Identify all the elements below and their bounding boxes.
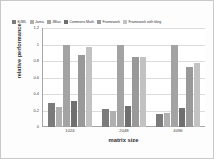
y-axis-tick-labels: 00.20.40.60.811.2 [25, 23, 41, 133]
y-axis-tick-label: 0.8 [33, 59, 39, 63]
y-axis-title: relative performance [16, 8, 22, 94]
legend-item[interactable]: JBlas [47, 20, 61, 24]
bar-group [97, 28, 151, 127]
legend-item[interactable]: Framework [97, 20, 120, 24]
bar[interactable] [164, 113, 171, 127]
bar[interactable] [156, 114, 163, 127]
bar[interactable] [132, 57, 139, 127]
y-axis-tick-label: 0.4 [33, 92, 39, 96]
legend-item-label: Commons Math [69, 20, 94, 24]
bar[interactable] [102, 109, 109, 127]
legend-item-label: Framework [102, 20, 120, 24]
y-axis-tick-label: 0.6 [33, 76, 39, 80]
bar[interactable] [186, 67, 193, 127]
legend-swatch-icon [97, 20, 101, 24]
x-axis-tick-label: 2048 [97, 128, 151, 133]
y-axis-tick-label: 0 [37, 125, 39, 129]
chart-figure: EJMLJamaJBlasCommons MathFrameworkFramew… [0, 0, 214, 159]
bar[interactable] [78, 55, 85, 127]
legend-item-label: JBlas [52, 20, 61, 24]
bar[interactable] [171, 45, 178, 128]
x-axis-tick-labels: 102420484096 [43, 128, 205, 133]
legend-item[interactable]: Framework with tiling [123, 20, 161, 24]
bar[interactable] [63, 45, 70, 128]
bar-group [151, 28, 205, 127]
legend-swatch-icon [123, 20, 127, 24]
legend-item[interactable]: Commons Math [64, 20, 94, 24]
legend-swatch-icon [64, 20, 68, 24]
y-axis-tick-label: 1 [37, 43, 39, 47]
bar-group [43, 28, 97, 127]
x-axis-title: matrix size [42, 137, 205, 143]
bar[interactable] [140, 57, 147, 127]
bar[interactable] [86, 47, 93, 127]
x-axis-tick-label: 1024 [43, 128, 97, 133]
bar[interactable] [117, 45, 124, 128]
bar[interactable] [179, 108, 186, 127]
bar[interactable] [110, 111, 117, 127]
legend-item-label: Framework with tiling [128, 20, 161, 24]
bar[interactable] [194, 63, 201, 127]
y-axis-tick-label: 0.2 [33, 109, 39, 113]
legend-swatch-icon [47, 20, 51, 24]
bar[interactable] [48, 103, 55, 127]
bar-groups [43, 28, 205, 127]
x-axis-tick-label: 4096 [151, 128, 205, 133]
y-axis-tick-label: 1.2 [33, 26, 39, 30]
bar[interactable] [125, 106, 132, 127]
bar[interactable] [56, 107, 63, 127]
chart-legend: EJMLJamaJBlasCommons MathFrameworkFramew… [12, 17, 208, 27]
bar[interactable] [71, 101, 78, 127]
